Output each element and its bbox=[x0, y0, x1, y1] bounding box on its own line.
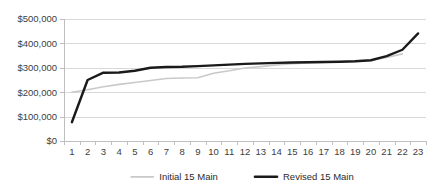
legend-item[interactable]: Initial 15 Main bbox=[131, 171, 218, 182]
x-axis-tick-label: 12 bbox=[240, 146, 251, 157]
y-axis bbox=[60, 19, 65, 142]
data-series-group bbox=[72, 33, 418, 122]
legend-item[interactable]: Revised 15 Main bbox=[255, 171, 354, 182]
chart-container: $0$100,000$200,000$300,000$400,000$500,0… bbox=[0, 0, 437, 195]
line-chart: $0$100,000$200,000$300,000$400,000$500,0… bbox=[0, 0, 437, 195]
series-line bbox=[72, 33, 418, 122]
y-axis-tick-label: $200,000 bbox=[17, 87, 57, 98]
y-axis-tick-label: $100,000 bbox=[17, 111, 57, 122]
x-axis-tick-label: 2 bbox=[85, 146, 90, 157]
x-axis-tick-label: 22 bbox=[397, 146, 408, 157]
x-axis-tick-label: 18 bbox=[334, 146, 345, 157]
x-axis-tick-label: 21 bbox=[381, 146, 392, 157]
x-axis-tick-label: 11 bbox=[224, 146, 234, 157]
x-axis-tick-label: 19 bbox=[350, 146, 361, 157]
legend-label: Revised 15 Main bbox=[283, 171, 354, 182]
y-axis-tick-label: $300,000 bbox=[17, 62, 57, 73]
x-axis-tick-label: 15 bbox=[287, 146, 298, 157]
chart-legend: Initial 15 MainRevised 15 Main bbox=[131, 171, 354, 182]
x-axis-tick-label: 4 bbox=[116, 146, 121, 157]
y-axis-tick-labels: $0$100,000$200,000$300,000$400,000$500,0… bbox=[17, 13, 57, 146]
x-axis-tick-label: 17 bbox=[318, 146, 329, 157]
x-axis-tick-label: 3 bbox=[101, 146, 106, 157]
x-axis-tick-label: 8 bbox=[179, 146, 184, 157]
x-axis-tick-label: 20 bbox=[366, 146, 377, 157]
x-axis-tick-label: 1 bbox=[69, 146, 74, 157]
x-axis-tick-label: 10 bbox=[208, 146, 219, 157]
gridlines bbox=[64, 20, 426, 142]
x-axis-tick-label: 13 bbox=[255, 146, 266, 157]
x-axis-tick-label: 9 bbox=[195, 146, 200, 157]
y-axis-tick-label: $0 bbox=[46, 135, 57, 146]
legend-label: Initial 15 Main bbox=[159, 171, 218, 182]
y-axis-tick-label: $400,000 bbox=[17, 38, 57, 49]
y-axis-tick-label: $500,000 bbox=[17, 13, 57, 24]
x-axis-tick-label: 14 bbox=[271, 146, 282, 157]
x-axis-tick-label: 6 bbox=[148, 146, 153, 157]
x-axis-tick-labels: 1234567891011121314151617181920212223 bbox=[69, 146, 423, 157]
x-axis-tick-label: 5 bbox=[132, 146, 137, 157]
x-axis bbox=[64, 141, 427, 145]
x-axis-tick-label: 16 bbox=[303, 146, 314, 157]
x-axis-tick-label: 7 bbox=[164, 146, 169, 157]
x-axis-tick-label: 23 bbox=[413, 146, 424, 157]
